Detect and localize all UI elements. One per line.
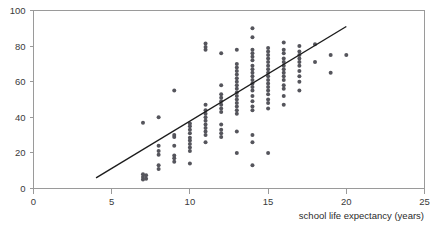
data-point bbox=[250, 133, 254, 137]
data-point bbox=[250, 71, 254, 75]
data-points-layer bbox=[141, 26, 348, 181]
data-point bbox=[266, 85, 270, 89]
data-point bbox=[188, 131, 192, 135]
data-point bbox=[219, 92, 223, 96]
data-point bbox=[250, 67, 254, 71]
data-point bbox=[266, 57, 270, 61]
data-point bbox=[266, 81, 270, 85]
x-tick-label: 10 bbox=[185, 196, 196, 207]
data-point bbox=[204, 41, 208, 45]
data-point bbox=[204, 133, 208, 137]
x-axis-title: school life expectancy (years) bbox=[299, 210, 424, 221]
data-point bbox=[144, 173, 148, 177]
data-point bbox=[250, 51, 254, 55]
data-point bbox=[282, 78, 286, 82]
data-point bbox=[188, 128, 192, 132]
data-point bbox=[250, 140, 254, 144]
data-point bbox=[235, 108, 239, 112]
data-point bbox=[157, 153, 161, 157]
data-point bbox=[297, 74, 301, 78]
data-point bbox=[266, 89, 270, 93]
data-point bbox=[250, 163, 254, 167]
data-point bbox=[219, 106, 223, 110]
data-point bbox=[297, 49, 301, 53]
data-point bbox=[235, 83, 239, 87]
data-point bbox=[235, 130, 239, 134]
x-tick-label: 5 bbox=[109, 196, 114, 207]
x-tick-label: 25 bbox=[419, 196, 430, 207]
data-point bbox=[282, 83, 286, 87]
data-point bbox=[204, 122, 208, 126]
data-point bbox=[250, 78, 254, 82]
data-point bbox=[204, 126, 208, 130]
data-point bbox=[235, 69, 239, 73]
data-point bbox=[297, 80, 301, 84]
trend-line bbox=[96, 27, 346, 178]
data-point bbox=[141, 121, 145, 125]
data-point bbox=[250, 99, 254, 103]
y-tick-label: 80 bbox=[15, 41, 26, 52]
y-tick-label: 60 bbox=[15, 76, 26, 87]
data-point bbox=[219, 110, 223, 114]
data-point bbox=[266, 49, 270, 53]
data-point bbox=[235, 65, 239, 69]
data-point bbox=[266, 101, 270, 105]
data-point bbox=[282, 94, 286, 98]
data-point bbox=[235, 94, 239, 98]
data-point bbox=[235, 80, 239, 84]
data-point bbox=[282, 103, 286, 107]
x-tick-label: 0 bbox=[31, 196, 36, 207]
data-point bbox=[250, 108, 254, 112]
data-point bbox=[297, 60, 301, 64]
data-point bbox=[297, 69, 301, 73]
data-point bbox=[344, 53, 348, 57]
data-point bbox=[219, 83, 223, 87]
data-point bbox=[235, 48, 239, 52]
data-point bbox=[204, 119, 208, 123]
y-tick-label: 0 bbox=[20, 183, 25, 194]
data-point bbox=[204, 103, 208, 107]
data-point bbox=[188, 142, 192, 146]
data-point bbox=[157, 149, 161, 153]
data-point bbox=[266, 151, 270, 155]
data-point bbox=[204, 115, 208, 119]
data-point bbox=[282, 67, 286, 71]
data-point bbox=[282, 87, 286, 91]
data-point bbox=[297, 44, 301, 48]
data-point bbox=[266, 46, 270, 50]
data-point bbox=[250, 58, 254, 62]
data-point bbox=[266, 64, 270, 68]
plot-frame bbox=[34, 11, 425, 189]
x-axis-tick-labels: 0510152025 bbox=[31, 196, 430, 207]
data-point bbox=[172, 160, 176, 164]
data-point bbox=[235, 62, 239, 66]
data-point bbox=[282, 71, 286, 75]
data-point bbox=[172, 144, 176, 148]
data-point bbox=[219, 135, 223, 139]
data-point bbox=[204, 45, 208, 49]
data-point bbox=[313, 60, 317, 64]
chart-canvas: 0510152025 020406080100 school life expe… bbox=[0, 0, 440, 233]
data-point bbox=[235, 73, 239, 77]
data-point bbox=[235, 76, 239, 80]
data-point bbox=[250, 105, 254, 109]
data-point bbox=[250, 55, 254, 59]
data-point bbox=[297, 57, 301, 61]
data-point bbox=[266, 106, 270, 110]
y-tick-label: 40 bbox=[15, 112, 26, 123]
y-axis-tick-labels: 020406080100 bbox=[10, 5, 26, 194]
data-point bbox=[250, 89, 254, 93]
x-tick-label: 20 bbox=[341, 196, 352, 207]
data-point bbox=[204, 140, 208, 144]
data-point bbox=[250, 85, 254, 89]
data-point bbox=[157, 115, 161, 119]
data-point bbox=[172, 89, 176, 93]
data-point bbox=[266, 60, 270, 64]
data-point bbox=[188, 136, 192, 140]
y-tick-label: 100 bbox=[10, 5, 26, 16]
data-point bbox=[266, 98, 270, 102]
data-point bbox=[235, 101, 239, 105]
data-point bbox=[266, 78, 270, 82]
data-point bbox=[235, 98, 239, 102]
scatter-chart: 0510152025 020406080100 school life expe… bbox=[0, 0, 440, 233]
